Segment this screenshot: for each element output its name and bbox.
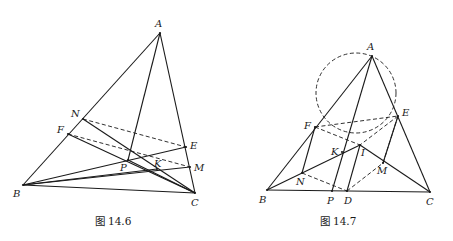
point-label-m: M xyxy=(376,165,388,176)
segment-ab xyxy=(267,56,372,190)
point-label-f: F xyxy=(303,120,312,131)
point-a xyxy=(159,32,161,34)
segment-ne xyxy=(83,119,186,147)
segment-bk xyxy=(23,169,157,185)
point-label-k: K xyxy=(330,146,339,157)
segment-ap xyxy=(128,33,160,160)
segment-fn xyxy=(302,127,315,173)
segment-ei xyxy=(360,116,398,145)
circle-aef xyxy=(316,53,396,133)
point-a xyxy=(371,55,373,57)
point-label-d: D xyxy=(343,195,352,206)
segment-nc xyxy=(83,119,195,193)
segment-nd xyxy=(302,173,347,191)
point-label-n: N xyxy=(70,108,81,119)
geometry-diagrams: ABCNFEMPK图 14.6 ABCFEIKMNPD图 14.7 xyxy=(0,0,453,241)
point-c xyxy=(429,191,431,193)
figure-14-7: ABCFEIKMNPD图 14.7 xyxy=(258,41,434,227)
segment-ac xyxy=(160,33,195,193)
point-c xyxy=(194,192,196,194)
segment-fi xyxy=(315,127,360,145)
segment-be xyxy=(23,147,186,185)
point-m xyxy=(382,162,384,164)
figure-caption: 图 14.7 xyxy=(320,215,357,227)
point-f xyxy=(67,133,69,135)
point-m xyxy=(189,166,191,168)
point-label-c: C xyxy=(426,196,434,207)
segment-bi xyxy=(267,145,360,190)
point-label-c: C xyxy=(191,197,199,208)
point-label-b: B xyxy=(258,194,266,205)
segment-bc xyxy=(23,185,195,193)
segment-pc xyxy=(128,160,195,193)
figure-caption: 图 14.6 xyxy=(95,215,132,227)
point-label-f: F xyxy=(56,124,65,135)
point-e xyxy=(397,115,399,117)
point-b xyxy=(22,184,24,186)
point-n xyxy=(301,172,303,174)
point-d xyxy=(346,190,348,192)
segment-id xyxy=(347,145,360,191)
point-p xyxy=(331,190,333,192)
point-label-n: N xyxy=(295,176,306,187)
point-p xyxy=(127,159,129,161)
figure-14-6: ABCNFEMPK图 14.6 xyxy=(12,18,205,227)
point-n xyxy=(82,118,84,120)
point-label-a: A xyxy=(154,18,162,29)
point-f xyxy=(314,126,316,128)
point-label-m: M xyxy=(193,162,205,173)
point-label-b: B xyxy=(12,188,20,199)
point-b xyxy=(266,189,268,191)
point-label-e: E xyxy=(401,107,410,118)
point-e xyxy=(185,146,187,148)
point-k xyxy=(341,151,343,153)
point-label-p: P xyxy=(119,162,127,173)
segment-ab xyxy=(23,33,160,185)
point-label-p: P xyxy=(326,195,334,206)
point-label-a: A xyxy=(366,41,374,52)
point-label-e: E xyxy=(189,140,198,151)
point-label-k: K xyxy=(153,158,162,169)
point-i xyxy=(359,144,361,146)
